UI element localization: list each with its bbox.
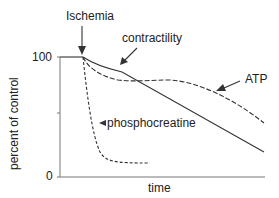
phosphocreatine-arrow-head (99, 120, 106, 126)
y-tick-label-0: 0 (46, 170, 53, 182)
ischemia-arrow-head (78, 46, 86, 55)
y-tick-label-100: 100 (32, 51, 52, 63)
chart-canvas (0, 0, 279, 198)
series-contractility (83, 57, 264, 152)
ischemia-label: Ischemia (66, 10, 114, 22)
atp-arrow-head (216, 84, 226, 91)
y-axis-label: percent of control (7, 77, 21, 170)
contractility-label: contractility (122, 32, 182, 44)
atp-label: ATP (245, 73, 267, 85)
phosphocreatine-label: phosphocreatine (107, 117, 196, 129)
series-phosphocreatine (83, 57, 150, 163)
atp-arrow-shaft (224, 81, 240, 88)
x-axis-label: time (148, 182, 171, 194)
contractility-arrow-shaft (125, 48, 137, 60)
series-atp (83, 57, 264, 123)
